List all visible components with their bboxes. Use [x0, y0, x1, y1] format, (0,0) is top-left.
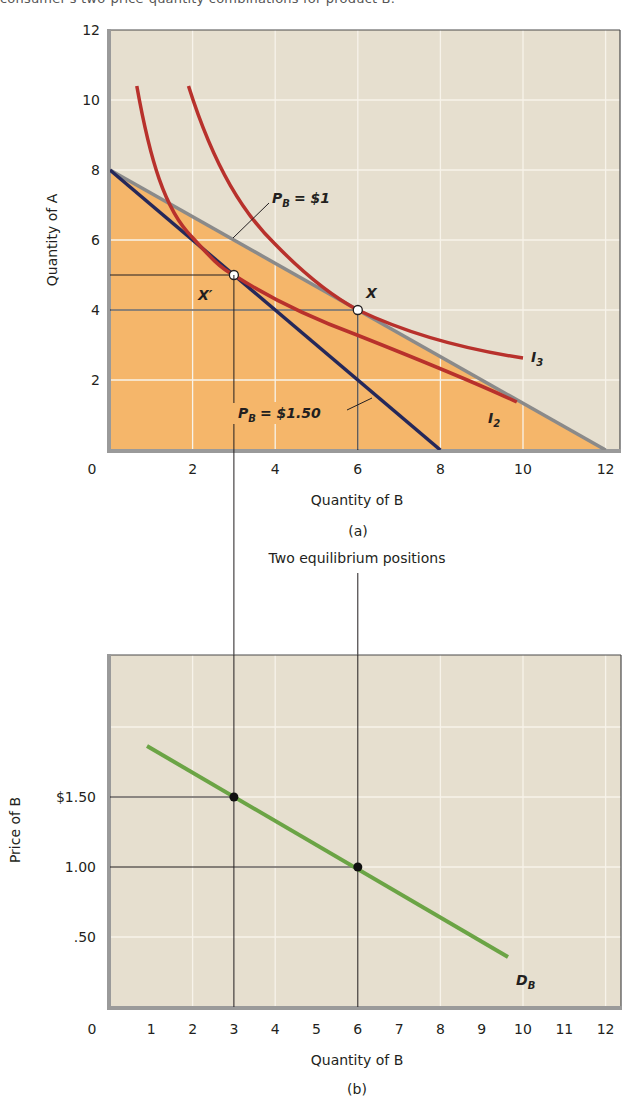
svg-text:4: 4	[271, 1021, 280, 1037]
svg-text:3: 3	[229, 1021, 238, 1037]
svg-text:8: 8	[436, 1021, 445, 1037]
panel-a-x-axis-label: Quantity of B	[311, 492, 404, 508]
panel-a-x-ticks: 0 2 4 6 8 10 12	[88, 461, 615, 477]
svg-text:12: 12	[82, 22, 100, 38]
svg-text:12: 12	[597, 461, 615, 477]
svg-text:4: 4	[271, 461, 280, 477]
svg-text:.50: .50	[74, 929, 96, 945]
panel-a: PB= $1 PB= $1.50 X′ X I3 I2 12 10 8 6 4 …	[44, 22, 621, 539]
label-x: X	[365, 285, 378, 301]
svg-text:8: 8	[436, 461, 445, 477]
svg-text:0: 0	[88, 461, 97, 477]
panel-a-y-axis-bar	[107, 29, 111, 453]
svg-text:10: 10	[514, 1021, 532, 1037]
demand-point-q6	[353, 863, 362, 872]
svg-text:5: 5	[312, 1021, 321, 1037]
panel-b-x-axis-bar	[107, 1006, 622, 1010]
svg-text:6: 6	[353, 461, 362, 477]
panel-b-y-axis-bar	[107, 654, 111, 1010]
label-xprime: X′	[197, 287, 213, 303]
svg-text:10: 10	[82, 92, 100, 108]
panel-b: DB $1.50 1.00 .50 0 1 2 3 4 5 6 7 8 9 10…	[7, 654, 622, 1097]
panel-b-x-axis-label: Quantity of B	[311, 1052, 404, 1068]
svg-text:6: 6	[91, 232, 100, 248]
svg-text:0: 0	[88, 1021, 97, 1037]
svg-text:12: 12	[597, 1021, 615, 1037]
svg-text:4: 4	[91, 302, 100, 318]
svg-text:11: 11	[555, 1021, 573, 1037]
svg-text:1.00: 1.00	[65, 859, 96, 875]
svg-text:2: 2	[91, 372, 100, 388]
panel-a-x-axis-bar	[107, 449, 621, 453]
panel-a-y-axis-label: Quantity of A	[44, 193, 60, 286]
panel-b-label: (b)	[347, 1081, 367, 1097]
svg-text:$1.50: $1.50	[56, 789, 96, 805]
svg-text:7: 7	[395, 1021, 404, 1037]
panel-b-x-ticks: 0 1 2 3 4 5 6 7 8 9 10 11 12	[88, 1021, 615, 1037]
svg-text:9: 9	[477, 1021, 486, 1037]
point-x	[353, 306, 362, 315]
connector-label: Two equilibrium positions	[268, 550, 446, 566]
svg-text:6: 6	[353, 1021, 362, 1037]
figure-canvas: PB= $1 PB= $1.50 X′ X I3 I2 12 10 8 6 4 …	[0, 0, 632, 1099]
demand-point-q3	[229, 793, 238, 802]
panel-a-label: (a)	[348, 523, 368, 539]
svg-text:1: 1	[147, 1021, 156, 1037]
panel-b-plot-bg	[110, 655, 621, 1007]
svg-text:8: 8	[91, 162, 100, 178]
svg-text:10: 10	[514, 461, 532, 477]
panel-a-y-ticks: 12 10 8 6 4 2	[82, 22, 100, 388]
panel-b-y-axis-label: Price of B	[7, 797, 23, 863]
svg-text:2: 2	[188, 461, 197, 477]
panel-b-y-ticks: $1.50 1.00 .50	[56, 789, 96, 945]
svg-text:2: 2	[188, 1021, 197, 1037]
